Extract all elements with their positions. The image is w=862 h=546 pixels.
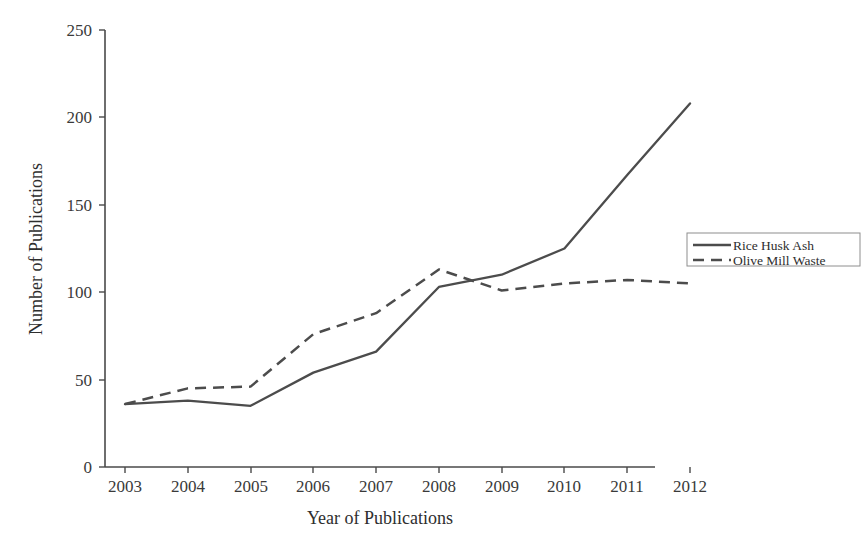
y-axis-tick-labels: 250 200 150 100 50 0 [67, 21, 93, 477]
series-line-rice-husk-ash [125, 103, 690, 405]
x-tick-label-2003: 2003 [108, 477, 142, 496]
y-tick-label-250: 250 [67, 21, 93, 40]
series-line-olive-mill-waste [125, 269, 690, 404]
x-tick-label-2012: 2012 [673, 477, 707, 496]
y-tick-label-0: 0 [84, 458, 93, 477]
chart-figure: 250 200 150 100 50 0 2003 2004 2005 2006 [0, 0, 862, 546]
x-tick-label-2009: 2009 [485, 477, 519, 496]
y-axis-ticks [99, 30, 105, 467]
legend-label-rice-husk-ash: Rice Husk Ash [733, 238, 814, 253]
y-tick-label-100: 100 [67, 283, 93, 302]
x-tick-label-2007: 2007 [359, 477, 394, 496]
x-axis-ticks [125, 467, 690, 473]
legend-label-olive-mill-waste: Olive Mill Waste [733, 253, 825, 268]
y-tick-label-200: 200 [67, 108, 93, 127]
x-tick-label-2010: 2010 [547, 477, 581, 496]
chart-legend: Rice Husk Ash Olive Mill Waste [687, 233, 860, 268]
x-tick-label-2008: 2008 [422, 477, 456, 496]
line-chart: 250 200 150 100 50 0 2003 2004 2005 2006 [0, 0, 862, 546]
x-axis-title: Year of Publications [307, 508, 453, 528]
y-tick-label-150: 150 [67, 196, 93, 215]
x-tick-label-2011: 2011 [610, 477, 643, 496]
x-tick-label-2006: 2006 [296, 477, 330, 496]
x-tick-label-2005: 2005 [234, 477, 268, 496]
x-tick-label-2004: 2004 [171, 477, 206, 496]
y-tick-label-50: 50 [75, 371, 92, 390]
y-axis-title: Number of Publications [26, 163, 46, 335]
x-axis-tick-labels: 2003 2004 2005 2006 2007 2008 2009 2010 … [108, 477, 707, 496]
chart-series-group [125, 103, 690, 405]
